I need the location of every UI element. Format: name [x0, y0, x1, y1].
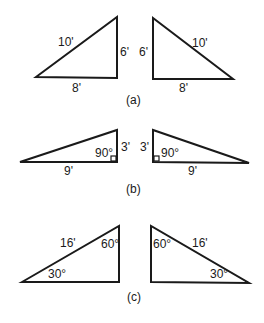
panel-a: 10' 6' 8' 6' 10' 8' (a) [36, 17, 233, 107]
label-a-right-hyp: 10' [192, 36, 208, 50]
caption-a: (a) [126, 93, 141, 107]
triangle-c-left [22, 226, 119, 282]
label-c-left-top-angle: 60° [101, 237, 119, 251]
right-angle-marker-b-right [154, 156, 159, 161]
label-b-right-base: 9' [188, 164, 197, 178]
label-a-left-hyp: 10' [58, 35, 74, 49]
triangle-diagram: 10' 6' 8' 6' 10' 8' (a) 90° 3' 9' 3' 90°… [0, 0, 264, 323]
label-c-right-top-angle: 60° [153, 237, 171, 251]
label-b-right-vert: 3' [140, 140, 149, 154]
label-c-left-hyp: 16' [60, 236, 76, 250]
triangle-c-right [151, 226, 249, 283]
panel-b: 90° 3' 9' 3' 90° 9' (b) [20, 130, 249, 196]
label-b-left-base: 9' [64, 164, 73, 178]
caption-c: (c) [127, 290, 141, 304]
label-c-right-bottom-angle: 30° [210, 267, 228, 281]
label-a-right-vert: 6' [139, 45, 148, 59]
label-a-left-base: 8' [72, 81, 81, 95]
label-a-right-base: 8' [179, 81, 188, 95]
label-a-left-vert: 6' [120, 45, 129, 59]
label-c-left-bottom-angle: 30° [48, 267, 66, 281]
label-b-left-vert: 3' [121, 140, 130, 154]
label-b-right-angle: 90° [161, 146, 179, 160]
triangle-a-left [36, 17, 117, 78]
label-b-left-angle: 90° [95, 146, 113, 160]
panel-c: 16' 60° 30° 60° 16' 30° (c) [22, 226, 249, 304]
caption-b: (b) [126, 182, 141, 196]
label-c-right-hyp: 16' [192, 236, 208, 250]
